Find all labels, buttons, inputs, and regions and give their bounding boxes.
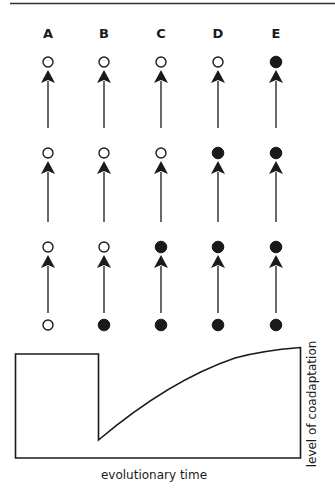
open-circle-icon xyxy=(43,57,53,67)
filled-circle-icon xyxy=(270,241,282,253)
up-arrow-icon xyxy=(97,70,111,128)
up-arrow-icon xyxy=(269,70,283,128)
column-b: B xyxy=(97,26,111,331)
open-circle-icon xyxy=(43,320,53,330)
column-label: B xyxy=(99,26,109,41)
up-arrow-icon xyxy=(154,161,168,222)
coadaptation-diagram: ABCDE evolutionary time level of coadapt… xyxy=(0,0,335,502)
open-circle-icon xyxy=(43,148,53,158)
open-circle-icon xyxy=(43,242,53,252)
up-arrow-icon xyxy=(41,161,55,222)
up-arrow-icon xyxy=(211,255,225,313)
open-circle-icon xyxy=(213,57,223,67)
filled-circle-icon xyxy=(155,241,167,253)
filled-circle-icon xyxy=(212,241,224,253)
up-arrow-icon xyxy=(154,255,168,313)
filled-circle-icon xyxy=(212,147,224,159)
open-circle-icon xyxy=(99,148,109,158)
column-c: C xyxy=(154,26,168,331)
up-arrow-icon xyxy=(97,255,111,313)
open-circle-icon xyxy=(156,57,166,67)
filled-circle-icon xyxy=(270,56,282,68)
up-arrow-icon xyxy=(41,70,55,128)
open-circle-icon xyxy=(156,148,166,158)
coadaptation-curve xyxy=(16,348,301,459)
open-circle-icon xyxy=(99,242,109,252)
column-label: D xyxy=(213,26,224,41)
filled-circle-icon xyxy=(98,319,110,331)
columns-group: ABCDE xyxy=(41,26,283,331)
column-label: E xyxy=(272,26,281,41)
up-arrow-icon xyxy=(41,255,55,313)
filled-circle-icon xyxy=(270,319,282,331)
filled-circle-icon xyxy=(212,319,224,331)
open-circle-icon xyxy=(99,57,109,67)
filled-circle-icon xyxy=(270,147,282,159)
column-e: E xyxy=(269,26,283,331)
column-d: D xyxy=(211,26,225,331)
y-axis-label: level of coadaptation xyxy=(305,341,319,468)
column-label: A xyxy=(43,26,53,41)
coadaptation-graph: evolutionary time level of coadaptation xyxy=(16,341,320,482)
column-label: C xyxy=(156,26,166,41)
x-axis-label: evolutionary time xyxy=(101,468,207,482)
up-arrow-icon xyxy=(211,161,225,222)
filled-circle-icon xyxy=(155,319,167,331)
up-arrow-icon xyxy=(269,255,283,313)
up-arrow-icon xyxy=(269,161,283,222)
up-arrow-icon xyxy=(211,70,225,128)
up-arrow-icon xyxy=(97,161,111,222)
up-arrow-icon xyxy=(154,70,168,128)
column-a: A xyxy=(41,26,55,330)
